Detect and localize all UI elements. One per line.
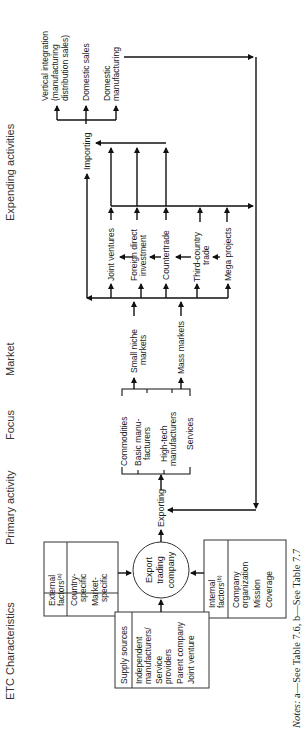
- supply-source-item: manufacturers/: [143, 627, 153, 684]
- outcome-domestic-manufacturing-2: manufacturing: [111, 47, 121, 101]
- etc-label-1: Export: [144, 556, 154, 583]
- market-mass-markets: Mass markets: [176, 321, 186, 374]
- exporting-label: Exporting: [156, 489, 166, 527]
- outcome-domestic-sales: Domestic sales: [81, 43, 91, 101]
- outcome-vertical-integration-2: (manufacturing: [50, 44, 60, 101]
- outcome-vertical-integration-1: Vertical integration: [40, 31, 50, 101]
- focus-item-commodities: Commodities: [119, 416, 129, 466]
- importing-label: Importing: [82, 132, 92, 170]
- etc-flow-diagram: Expending activities Market Focus Primar…: [0, 0, 306, 729]
- expending-bus: [87, 286, 228, 298]
- focus-item-basic-manufacturers-2: facturers: [142, 427, 152, 460]
- supply-source-item: Parent company: [175, 621, 185, 684]
- header-etc-characteristics: ETC Characteristics: [4, 602, 16, 700]
- internal-factor-item: Mission: [252, 579, 262, 608]
- market-small-niche-2: markets: [138, 335, 148, 365]
- supply-sources-box: Supply sources Independent manufacturers…: [115, 612, 209, 688]
- internal-factor-item: Coverage: [264, 571, 274, 608]
- etc-label-3: company: [166, 551, 176, 588]
- mode-joint-ventures: Joint ventures: [106, 228, 116, 281]
- focus-item-hightech-2: manufacturers: [168, 412, 178, 466]
- internal-factors-box: Internal factors(b) Company organization…: [204, 540, 286, 618]
- mode-third-country-2: trade: [201, 245, 211, 265]
- supply-source-item: Joint venture: [186, 635, 196, 684]
- external-factor-item: specific: [78, 573, 88, 602]
- internal-factor-item: organization: [240, 561, 250, 608]
- mode-fdi-2: investment: [138, 234, 148, 276]
- notes-footnote: Notes: a—See Table 7.6, b—See Table 7.7: [291, 549, 302, 729]
- header-market: Market: [4, 342, 16, 376]
- outcome-vertical-integration-3: distribution sales): [60, 35, 70, 101]
- mode-mega-projects: Mega projects: [223, 228, 233, 281]
- etc-label-2: trading: [155, 556, 165, 584]
- external-factor-item: specific: [99, 573, 109, 602]
- header-expending-activities: Expending activities: [4, 123, 16, 221]
- header-focus: Focus: [4, 410, 16, 440]
- external-factors-box: External factors(a) Country- specific Ma…: [44, 542, 118, 616]
- mode-countertrade: Countertrade: [161, 230, 171, 280]
- supply-sources-title: Supply sources: [119, 626, 129, 684]
- header-primary-activity: Primary activity: [4, 470, 16, 545]
- supply-source-item: providers: [163, 649, 173, 684]
- focus-item-services: Services: [185, 417, 195, 450]
